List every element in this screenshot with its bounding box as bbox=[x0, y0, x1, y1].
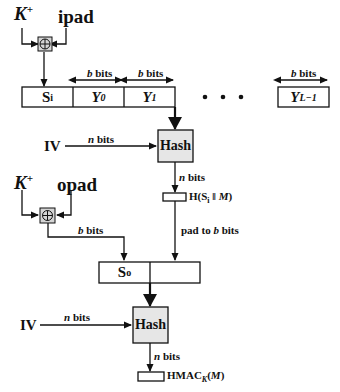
inner-hash-result-label: H(Si ‖ M) bbox=[189, 190, 232, 205]
block-width-label: b bits bbox=[138, 67, 163, 79]
outer-hash-label: Hash bbox=[133, 307, 168, 343]
pad-note-label: pad to b bits bbox=[181, 224, 239, 236]
block-so: So bbox=[99, 262, 150, 283]
outer-iv-label: IV bbox=[20, 317, 37, 334]
hmac-output-box bbox=[138, 372, 164, 381]
ipad-label: ipad bbox=[58, 6, 94, 28]
hmac-structure-diagram bbox=[0, 0, 340, 392]
ellipsis-dots bbox=[203, 95, 244, 100]
outer-hash-out-width-label: n bits bbox=[154, 350, 180, 362]
inner-key-arrow bbox=[22, 28, 38, 44]
inner-hash-label: Hash bbox=[158, 130, 193, 162]
block-width-label: b bits bbox=[87, 67, 112, 79]
inner-iv-label: IV bbox=[44, 138, 61, 155]
hmac-result-label: HMACK(M) bbox=[167, 369, 224, 384]
inner-hash-result-box bbox=[163, 193, 186, 201]
block-si: Si bbox=[22, 87, 73, 107]
xor-icon bbox=[38, 37, 52, 51]
outer-key-label: K+ bbox=[14, 172, 33, 194]
block-y0: Y0 bbox=[73, 87, 124, 107]
block-y-last-label: YL−1 bbox=[278, 87, 329, 107]
inner-hash-out-width-label: n bits bbox=[179, 171, 205, 183]
inner-iv-width-label: n bits bbox=[88, 133, 114, 145]
xor-icon bbox=[40, 208, 55, 223]
block-width-label: b bits bbox=[291, 67, 316, 79]
outer-iv-width-label: n bits bbox=[64, 311, 90, 323]
inner-key-label: K+ bbox=[14, 3, 33, 25]
opad-label: opad bbox=[57, 174, 97, 196]
block-y1: Y1 bbox=[124, 87, 175, 107]
outer-xor-width-label: b bits bbox=[78, 224, 103, 236]
